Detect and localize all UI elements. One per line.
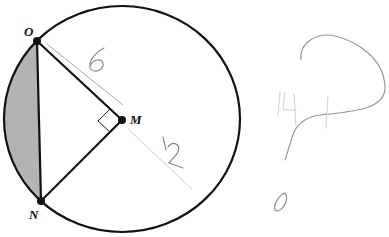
annotation-line-om [47, 44, 123, 105]
faint-fourteen-scribble [278, 92, 328, 128]
right-angle-marker [98, 109, 110, 132]
point-o [33, 37, 41, 45]
label-o: O [24, 24, 34, 39]
shaded-segment [4, 41, 41, 201]
label-n: N [28, 207, 39, 222]
handwritten-six [90, 48, 104, 71]
question-mark-dot [275, 193, 287, 211]
point-n [37, 197, 45, 205]
label-m: M [129, 112, 142, 127]
handwritten-twelve-one [163, 137, 166, 150]
point-m [118, 116, 126, 124]
circle-diagram: O M N [0, 0, 389, 237]
annotation-line-extension [128, 129, 192, 189]
segment-om [37, 41, 122, 120]
handwritten-twelve-two [168, 144, 183, 168]
question-mark-curve [285, 35, 385, 160]
